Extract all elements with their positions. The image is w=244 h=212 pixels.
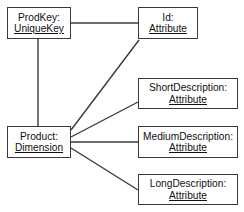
node-short-description[interactable]: ShortDescription: Attribute	[138, 78, 238, 109]
node-id-stereotype: Attribute	[149, 23, 187, 34]
node-id-name: Id:	[162, 12, 173, 23]
node-long-description-name: LongDescription:	[150, 178, 226, 189]
node-medium-description-stereotype: Attribute	[169, 142, 207, 153]
node-short-description-stereotype: Attribute	[169, 94, 207, 105]
node-medium-description-name: MediumDescription:	[143, 131, 233, 142]
node-product[interactable]: Product: Dimension	[7, 126, 71, 158]
node-prodkey[interactable]: ProdKey: UniqueKey	[7, 7, 71, 39]
diagram-canvas: ProdKey: UniqueKey Id: Attribute ShortDe…	[0, 0, 244, 212]
connector-product-to-short-description	[71, 102, 138, 137]
connector-product-to-id	[71, 40, 139, 130]
node-product-name: Product:	[20, 131, 58, 142]
node-long-description-stereotype: Attribute	[169, 190, 207, 201]
node-long-description[interactable]: LongDescription: Attribute	[138, 174, 238, 205]
node-id[interactable]: Id: Attribute	[138, 7, 198, 39]
node-short-description-name: ShortDescription:	[149, 82, 227, 93]
node-medium-description[interactable]: MediumDescription: Attribute	[138, 126, 238, 158]
node-prodkey-stereotype: UniqueKey	[14, 23, 64, 34]
connector-product-to-long-description	[71, 148, 138, 190]
node-prodkey-name: ProdKey:	[18, 12, 60, 23]
node-product-stereotype: Dimension	[15, 142, 63, 153]
